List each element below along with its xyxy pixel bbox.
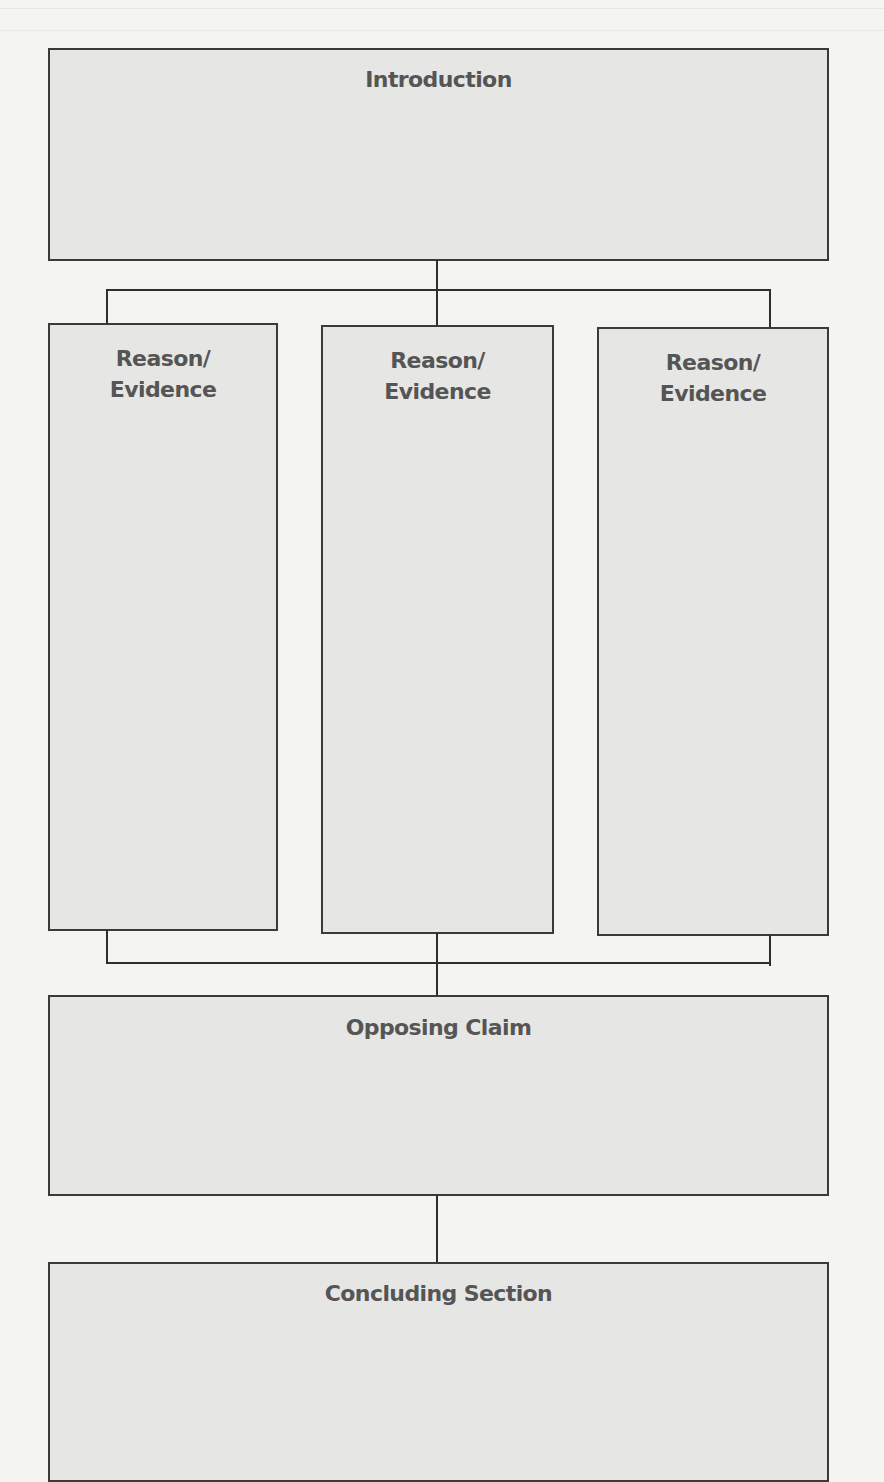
reason-evidence-label-2: Reason/ Evidence [323,345,552,407]
reason-evidence-box-1: Reason/ Evidence [48,323,278,931]
reason-evidence-box-3: Reason/ Evidence [597,327,829,936]
introduction-box: Introduction [48,48,829,261]
connector-drop-reason-2 [436,289,438,326]
reason-evidence-label-1-line2: Evidence [50,374,276,405]
connector-drop-reason-1 [106,289,108,324]
connector-rise-reason-1 [106,930,108,963]
connector-drop-reason-3 [769,289,771,328]
concluding-section-box: Concluding Section [48,1262,829,1482]
connector-branch-horizontal [106,289,771,291]
connector-opposing-to-concluding [436,1195,438,1263]
connector-intro-stem [436,260,438,291]
introduction-label: Introduction [50,64,827,95]
reason-evidence-label-1: Reason/ Evidence [50,343,276,405]
reason-evidence-label-2-line1: Reason/ [323,345,552,376]
opposing-claim-box: Opposing Claim [48,995,829,1196]
opposing-claim-label: Opposing Claim [50,1012,827,1043]
reason-evidence-label-3: Reason/ Evidence [599,347,827,409]
reason-evidence-label-1-line1: Reason/ [50,343,276,374]
connector-rise-reason-2 [436,933,438,996]
reason-evidence-label-2-line2: Evidence [323,376,552,407]
reason-evidence-box-2: Reason/ Evidence [321,325,554,934]
connector-merge-horizontal [106,962,771,964]
reason-evidence-label-3-line1: Reason/ [599,347,827,378]
concluding-section-label: Concluding Section [50,1278,827,1309]
scan-bleed-through [0,8,884,9]
reason-evidence-label-3-line2: Evidence [599,378,827,409]
scan-bleed-through [0,30,884,31]
